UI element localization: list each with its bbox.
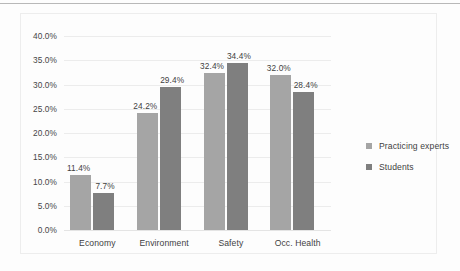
bar-pair: 24.2%29.4% bbox=[131, 36, 198, 230]
bar-value-label: 29.4% bbox=[160, 75, 184, 85]
bar-value-label: 34.4% bbox=[227, 51, 251, 61]
y-axis-tick-label: 10.0% bbox=[33, 177, 57, 187]
y-axis-tick-label: 30.0% bbox=[33, 80, 57, 90]
bar[interactable]: 29.4% bbox=[160, 87, 181, 230]
bar[interactable]: 34.4% bbox=[227, 63, 248, 230]
x-axis-category-label: Economy bbox=[64, 238, 131, 248]
bar-pair: 32.0%28.4% bbox=[264, 36, 331, 230]
bar[interactable]: 28.4% bbox=[293, 92, 314, 230]
bar-group: 32.0%28.4%Occ. Health bbox=[264, 36, 331, 230]
y-axis-tick-label: 35.0% bbox=[33, 55, 57, 65]
legend-item-label: Practicing experts bbox=[379, 141, 449, 151]
bar[interactable]: 7.7% bbox=[93, 193, 114, 230]
bar-value-label: 24.2% bbox=[133, 101, 157, 111]
square-marker bbox=[366, 143, 372, 149]
page-background: 0.0%5.0%10.0%15.0%20.0%25.0%30.0%35.0%40… bbox=[0, 0, 460, 271]
x-axis-category-label: Environment bbox=[131, 238, 198, 248]
bar[interactable]: 11.4% bbox=[70, 175, 91, 230]
legend-item-label: Students bbox=[379, 162, 414, 172]
y-axis-tick-label: 20.0% bbox=[33, 128, 57, 138]
bar-group: 11.4%7.7%Economy bbox=[64, 36, 131, 230]
square-marker bbox=[366, 164, 372, 170]
chart-frame: 0.0%5.0%10.0%15.0%20.0%25.0%30.0%35.0%40… bbox=[20, 13, 437, 254]
x-axis-category-label: Safety bbox=[198, 238, 265, 248]
legend-item[interactable]: Students bbox=[366, 160, 449, 174]
y-axis-tick-label: 5.0% bbox=[38, 201, 57, 211]
bar-value-label: 32.0% bbox=[267, 63, 291, 73]
bar-value-label: 28.4% bbox=[294, 80, 318, 90]
bar-value-label: 32.4% bbox=[200, 61, 224, 71]
legend-item[interactable]: Practicing experts bbox=[366, 139, 449, 153]
page-top-divider bbox=[0, 3, 460, 4]
bar[interactable]: 24.2% bbox=[137, 113, 158, 230]
bar-group: 24.2%29.4%Environment bbox=[131, 36, 198, 230]
bar-value-label: 7.7% bbox=[95, 181, 114, 191]
plot-area: 0.0%5.0%10.0%15.0%20.0%25.0%30.0%35.0%40… bbox=[64, 36, 331, 230]
y-axis-tick-label: 25.0% bbox=[33, 104, 57, 114]
y-axis-tick-label: 15.0% bbox=[33, 152, 57, 162]
gridline bbox=[64, 230, 331, 231]
bar-pair: 32.4%34.4% bbox=[198, 36, 265, 230]
bar-value-label: 11.4% bbox=[67, 163, 90, 173]
y-axis-tick-label: 40.0% bbox=[33, 31, 57, 41]
bar[interactable]: 32.4% bbox=[204, 73, 225, 230]
chart-legend: Practicing expertsStudents bbox=[366, 139, 449, 181]
y-axis-tick-label: 0.0% bbox=[38, 225, 57, 235]
bar[interactable]: 32.0% bbox=[270, 75, 291, 230]
x-axis-category-label: Occ. Health bbox=[264, 238, 331, 248]
bar-group: 32.4%34.4%Safety bbox=[198, 36, 265, 230]
bar-pair: 11.4%7.7% bbox=[64, 36, 131, 230]
